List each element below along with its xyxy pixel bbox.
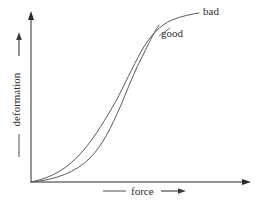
series-label-bad: bad bbox=[203, 6, 219, 17]
axis-arrow-up-icon bbox=[28, 11, 34, 20]
y-axis-label: deformation bbox=[11, 63, 22, 137]
deformation-label-arrow-group bbox=[16, 32, 22, 56]
plot-canvas bbox=[0, 0, 258, 210]
x-axis-label: force bbox=[131, 186, 154, 197]
axis-arrow-right-icon bbox=[242, 179, 251, 185]
up-arrow-icon bbox=[16, 32, 22, 40]
curve-good bbox=[31, 25, 159, 182]
force-label-arrow-group bbox=[161, 188, 186, 194]
right-arrow-icon bbox=[178, 188, 186, 194]
series-label-good: good bbox=[161, 28, 183, 39]
y-axis-group bbox=[28, 11, 34, 182]
force-deformation-figure: bad good force deformation bbox=[0, 0, 258, 210]
